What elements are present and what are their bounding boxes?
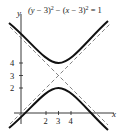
x-tick-3: 3 xyxy=(56,116,60,126)
hyperbola-diagram: y x (y − 3)2 − (x − 3)2 = 1 2 3 4 4 3 2 xyxy=(0,0,124,131)
y-tick-4: 4 xyxy=(10,58,15,68)
y-tick-2: 2 xyxy=(10,83,14,93)
x-axis-label: x xyxy=(111,109,116,119)
x-tick-4: 4 xyxy=(69,116,74,126)
y-axis-label: y xyxy=(16,8,21,18)
upper-branch xyxy=(9,21,108,63)
equation-label: (y − 3)2 − (x − 3)2 = 1 xyxy=(28,5,102,15)
x-tick-2: 2 xyxy=(44,116,48,126)
y-tick-3: 3 xyxy=(10,71,14,81)
plot: y x (y − 3)2 − (x − 3)2 = 1 2 3 4 4 3 2 xyxy=(0,0,124,131)
